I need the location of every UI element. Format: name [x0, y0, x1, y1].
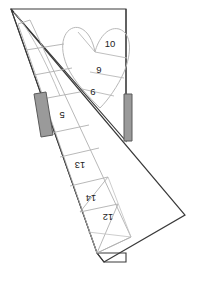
strip-divider-4 [51, 125, 89, 133]
strip-bottom-edge [97, 237, 131, 253]
right-gray-bar [124, 94, 132, 141]
lobe-divider-3 [82, 89, 114, 96]
segment-labels-group: 10 9 6 5 13 14 12 [59, 38, 115, 223]
left-gray-bar [34, 92, 53, 137]
strip-fan-lines [88, 177, 131, 237]
geometric-figure-svg: 10 9 6 5 13 14 12 [0, 0, 197, 281]
segment-label-14: 14 [86, 193, 97, 204]
segment-label-5: 5 [59, 110, 64, 121]
strip-diagonal-2 [97, 204, 118, 253]
segment-label-9: 9 [96, 64, 101, 75]
segment-label-6: 6 [90, 86, 95, 97]
segment-label-10: 10 [105, 38, 116, 49]
segment-label-12: 12 [103, 212, 114, 223]
lobe-divider-2 [90, 72, 124, 78]
lobe-divider-1 [95, 52, 127, 58]
diagram-canvas: 10 9 6 5 13 14 12 [0, 0, 197, 281]
segment-label-13: 13 [75, 160, 86, 171]
strip-divider-3 [42, 92, 80, 99]
